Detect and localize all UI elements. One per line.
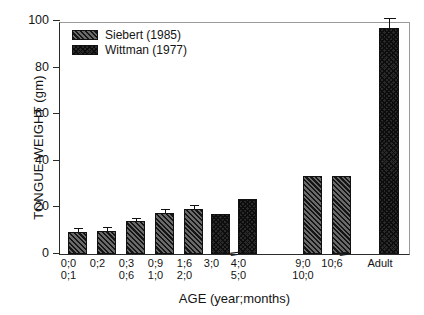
y-tick-0: 0 [53,253,60,254]
legend-entry-siebert: Siebert (1985) [72,28,187,41]
error-bar-1 [107,228,108,231]
y-tick-60: 60 [53,113,60,114]
error-bar-2 [136,219,137,221]
x-tick-label-2-line2: 0;6 [111,270,142,282]
x-tick-label-4-line1: 1;6 [177,257,192,269]
x-tick-label-2-line1: 0;3 [119,257,134,269]
x-tick-label-7-line2: 10;0 [286,270,320,282]
y-tick-80: 80 [53,67,60,68]
bar-5 [211,214,230,254]
error-bar-cap-1 [103,227,112,228]
bar-9 [379,28,399,254]
plot-area: 0 20 40 60 80 100 [59,22,410,255]
y-tick-100: 100 [53,20,60,21]
x-tick-label-5-line1: 3;0 [204,257,219,269]
legend-label-wittman: Wittman (1977) [105,43,187,57]
bar-8 [332,176,351,254]
bar-7 [303,176,322,254]
y-tick-label-80: 80 [35,60,49,74]
y-tick-40: 40 [53,160,60,161]
legend-entry-wittman: Wittman (1977) [72,43,187,56]
chart-figure: TONGUE WEIGHT (gm) AGE (year;months) 0 2… [0,0,424,315]
x-tick-label-3-line1: 0;9 [148,257,163,269]
x-tick-label-1: 0;2 [82,258,113,270]
x-axis-title: AGE (year;months) [59,291,410,306]
y-tick-20: 20 [53,206,60,207]
error-bar-9 [389,19,390,29]
bar-4 [184,209,203,254]
error-bar-4 [194,206,195,208]
y-tick-label-0: 0 [42,246,49,260]
x-tick-label-6: 4;0 5;0 [223,258,254,281]
error-bar-cap-9 [384,18,396,19]
chart-legend: Siebert (1985) Wittman (1977) [72,28,187,58]
error-bar-0 [78,229,79,232]
y-axis-title: TONGUE WEIGHT (gm) [31,48,46,248]
x-tick-label-0: 0;0 0;1 [53,258,84,281]
bar-3 [155,213,174,254]
legend-label-siebert: Siebert (1985) [105,28,181,42]
y-tick-label-60: 60 [35,106,49,120]
x-tick-label-0-line1: 0;0 [61,257,76,269]
error-bar-cap-0 [74,228,83,229]
error-bar-cap-2 [132,218,141,219]
x-tick-label-7-line1: 9;0 [295,257,310,269]
x-tick-label-2: 0;3 0;6 [111,258,142,281]
x-tick-label-1-line1: 0;2 [90,257,105,269]
x-tick-label-0-line2: 0;1 [53,270,84,282]
x-tick-label-8: 10;6 [315,258,349,270]
bar-1 [97,231,116,254]
x-tick-label-9-line1: Adult [367,257,392,269]
x-tick-label-3: 0;9 1;0 [140,258,171,281]
error-bar-cap-3 [161,209,170,210]
x-tick-label-6-line2: 5;0 [223,270,254,282]
legend-swatch-cross-hatch-icon [72,45,98,55]
bar-0 [68,232,87,254]
error-bar-cap-4 [190,205,199,206]
error-bar-3 [165,210,166,213]
x-tick-label-3-line2: 1;0 [140,270,171,282]
x-tick-label-6-line1: 4;0 [231,257,246,269]
bar-2 [126,221,145,254]
x-tick-label-9: Adult [360,258,400,270]
x-tick-label-4-line2: 2;0 [169,270,200,282]
y-tick-label-100: 100 [28,13,49,27]
y-tick-label-20: 20 [35,199,49,213]
legend-swatch-diagonal-hatch-icon [72,30,98,40]
y-tick-label-40: 40 [35,153,49,167]
bar-6 [238,199,257,254]
x-tick-label-8-line1: 10;6 [321,257,342,269]
